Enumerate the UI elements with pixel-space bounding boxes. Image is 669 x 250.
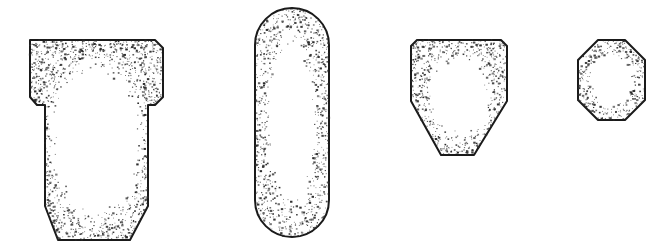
shape-capsule-profile xyxy=(254,8,330,237)
octagon-profile-outline xyxy=(578,40,645,120)
shape-profiles-figure xyxy=(0,0,669,250)
shape-tee-profile xyxy=(29,40,164,241)
shape-octagon-profile xyxy=(577,40,645,121)
